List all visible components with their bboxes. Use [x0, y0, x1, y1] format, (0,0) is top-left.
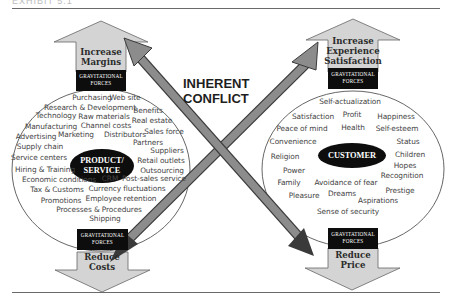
label-line: Satisfaction — [324, 56, 382, 66]
label-line: Reduce — [84, 252, 120, 262]
right-top-gravitational-forces: GRAVITATIONAL FORCES — [328, 68, 378, 89]
left-factor-word: Currency fluctuations — [88, 184, 165, 193]
right-factor-word: Sense of security — [317, 207, 379, 216]
label-line: Experience — [324, 46, 382, 56]
right-factor-word: Health — [341, 123, 365, 132]
left-factor-word: Real estate — [132, 116, 172, 125]
forces-line: FORCES — [328, 78, 378, 85]
title-line-1: INHERENT — [183, 76, 249, 91]
label-line: Increase — [80, 47, 121, 57]
left-factor-word: Technology — [36, 111, 76, 120]
left-factor-word: Service centers — [11, 153, 67, 162]
inherent-conflict-title: INHERENT CONFLICT — [183, 76, 249, 106]
forces-line: FORCES — [77, 239, 128, 246]
right-factor-word: Recognition — [381, 171, 423, 180]
reduce-costs-label: Reduce Costs — [84, 252, 120, 272]
right-factor-word: Power — [283, 166, 305, 175]
left-factor-word: Sales force — [144, 127, 184, 136]
left-factor-word: Suppliers — [150, 146, 183, 155]
forces-line: GRAVITATIONAL — [328, 71, 378, 78]
right-factor-word: Convenience — [270, 137, 317, 146]
left-factor-word: Tax & Customs — [30, 185, 84, 194]
forces-line: GRAVITATIONAL — [76, 73, 126, 80]
right-factor-word: Self-esteem — [376, 124, 419, 133]
left-factor-word: Marketing — [58, 130, 94, 139]
reduce-price-label: Reduce Price — [335, 250, 371, 270]
left-factor-word: Retail outlets — [137, 156, 184, 165]
right-factor-word: Status — [397, 137, 420, 146]
customer-core: CUSTOMER — [318, 143, 386, 168]
left-top-gravitational-forces: GRAVITATIONAL FORCES — [76, 70, 126, 91]
left-factor-word: Post-sales service — [122, 174, 186, 183]
core-line: PRODUCT/ — [70, 156, 134, 166]
label-line: Costs — [84, 262, 120, 272]
right-factor-word: Children — [395, 150, 425, 159]
label-line: Margins — [80, 57, 121, 67]
left-bottom-gravitational-forces: GRAVITATIONAL FORCES — [77, 229, 128, 250]
forces-line: FORCES — [328, 238, 378, 245]
right-factor-word: Peace of mind — [276, 124, 327, 133]
left-factor-word: Raw materials — [78, 112, 129, 121]
right-factor-word: Hopes — [394, 161, 417, 170]
label-line: Increase — [324, 36, 382, 46]
left-factor-word: Economic conditions — [22, 175, 96, 184]
left-factor-word: Employee retention — [86, 194, 157, 203]
increase-experience-satisfaction-label: Increase Experience Satisfaction — [324, 36, 382, 66]
forces-line: GRAVITATIONAL — [77, 232, 128, 239]
right-factor-word: Dreams — [328, 189, 356, 198]
right-factor-word: Prestige — [386, 186, 415, 195]
left-factor-word: Purchasing — [72, 93, 111, 102]
left-factor-word: Hiring & Training — [15, 165, 75, 174]
left-factor-word: Supply chain — [17, 142, 63, 151]
forces-line: FORCES — [76, 80, 126, 87]
left-factor-word: CRM — [102, 174, 118, 183]
left-factor-word: Shipping — [89, 214, 120, 223]
label-line: Price — [335, 260, 371, 270]
right-factor-word: Avoidance of fear — [315, 178, 378, 187]
right-factor-word: Aspirations — [358, 196, 398, 205]
increase-margins-label: Increase Margins — [80, 47, 121, 67]
title-line-2: CONFLICT — [183, 91, 249, 106]
right-factor-word: Family — [277, 178, 300, 187]
right-factor-word: Profit — [343, 110, 362, 119]
right-factor-word: Pleasure — [289, 191, 320, 200]
left-factor-word: Channel costs — [81, 121, 132, 130]
left-factor-word: Processes & Procedures — [56, 205, 142, 214]
right-factor-word: Satisfaction — [292, 112, 334, 121]
right-factor-word: Happiness — [377, 112, 415, 121]
left-factor-word: Promotions — [41, 196, 81, 205]
right-bottom-gravitational-forces: GRAVITATIONAL FORCES — [328, 228, 378, 249]
label-line: Reduce — [335, 250, 371, 260]
forces-line: GRAVITATIONAL — [328, 231, 378, 238]
core-label: CUSTOMER — [328, 151, 376, 160]
left-factor-word: Advertising — [16, 132, 57, 141]
right-factor-word: Religion — [271, 152, 300, 161]
right-factor-word: Self-actualization — [319, 97, 381, 106]
left-factor-word: Benefits — [133, 106, 162, 115]
left-factor-word: Web site — [109, 93, 140, 102]
